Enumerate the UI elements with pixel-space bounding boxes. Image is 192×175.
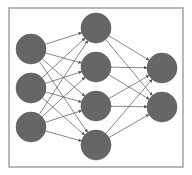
edges (39, 33, 152, 141)
input-node (16, 112, 46, 142)
nodes (16, 13, 177, 160)
hidden-node (81, 91, 111, 121)
connection-arrow (45, 131, 81, 141)
connection-arrow (111, 67, 147, 68)
input-node (16, 73, 46, 103)
connection-arrow (109, 75, 149, 98)
connection-arrow (39, 41, 88, 115)
connection-arrow (109, 114, 149, 137)
connection-arrow (45, 33, 81, 45)
hidden-node (81, 130, 111, 160)
hidden-node (81, 52, 111, 82)
output-node (147, 92, 177, 122)
hidden-node (81, 13, 111, 43)
connection-arrow (45, 111, 81, 123)
connection-arrow (42, 38, 85, 78)
input-node (16, 34, 46, 64)
neural-network-diagram (0, 0, 192, 175)
connection-arrow (109, 36, 149, 60)
output-node (147, 53, 177, 83)
connection-arrow (42, 77, 85, 117)
